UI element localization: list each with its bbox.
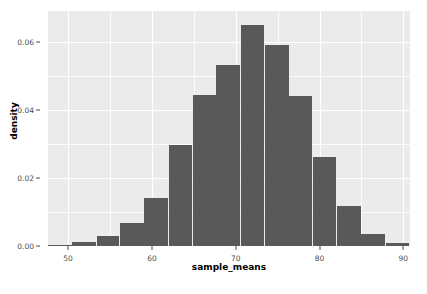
y-tick-label: 0.00 [17, 242, 34, 251]
histogram-bar [144, 198, 168, 246]
histogram-bars [48, 11, 410, 246]
x-tick-mark [319, 246, 320, 250]
histogram-bar [361, 234, 385, 246]
x-tick-mark [68, 246, 69, 250]
histogram-bar [216, 65, 240, 246]
x-tick-mark [403, 246, 404, 250]
x-tick-mark [151, 246, 152, 250]
y-tick-label: 0.06 [17, 38, 34, 47]
histogram-bar [193, 95, 216, 246]
histogram-bar [97, 236, 120, 246]
histogram-bar [313, 157, 337, 246]
y-tick-mark [36, 246, 40, 247]
y-axis-title: density [9, 81, 19, 161]
histogram-bar [169, 145, 193, 246]
histogram-bar [337, 206, 361, 246]
histogram-plot: 0.000.020.040.06 5060708090 sample_means… [0, 0, 427, 294]
y-tick-label: 0.04 [17, 106, 34, 115]
y-axis-ticks: 0.000.020.040.06 [0, 11, 42, 246]
y-tick-label: 0.02 [17, 174, 34, 183]
x-tick-mark [235, 246, 236, 250]
histogram-bar [289, 96, 312, 246]
histogram-bar [120, 223, 144, 246]
x-axis-title: sample_means [48, 262, 410, 272]
y-tick-mark [36, 110, 40, 111]
histogram-bar [241, 25, 265, 246]
y-tick-mark [36, 42, 40, 43]
histogram-bar [265, 45, 289, 246]
plot-panel [48, 11, 410, 246]
y-tick-mark [36, 178, 40, 179]
